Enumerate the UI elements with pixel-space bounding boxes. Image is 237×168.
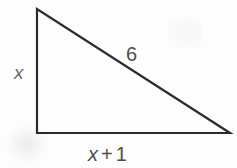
triangle-figure: x 6 x+1 [0,0,237,168]
side-label-vertical-leg: x [14,63,24,82]
side-label-hypotenuse: 6 [126,44,137,64]
base-label-variable: x [88,143,98,165]
base-label-constant: 1 [116,143,127,165]
base-label-operator: + [101,143,113,165]
triangle-outline [37,9,230,133]
side-label-base-leg: x+1 [88,144,127,164]
